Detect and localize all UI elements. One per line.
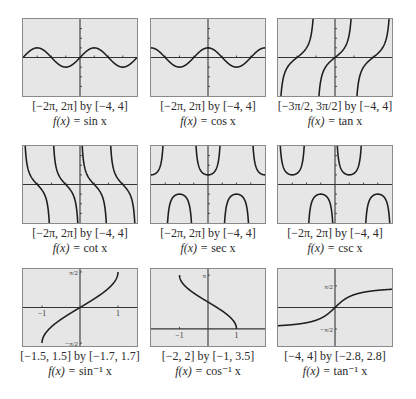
viewing-window-label: [−3π/2, 3π/2] by [−4, 4] [271,99,399,113]
graph-viewing-window [277,145,393,224]
function-name: sec x [211,241,235,255]
function-label: f(x) = tan x [271,114,399,128]
function-prefix: f(x) = [308,114,339,128]
function-name: cos⁻¹ x [206,364,241,378]
y-tick-label: −π/2 [65,340,78,346]
graph-viewing-window [22,145,138,224]
function-name: sin⁻¹ x [79,364,112,378]
function-prefix: f(x) = [53,241,84,255]
function-label: f(x) = cos⁻¹ x [144,364,272,378]
x-tick-label: −1 [175,331,183,340]
viewing-window-label: [−4, 4] by [−2.8, 2.8] [271,349,399,363]
function-prefix: f(x) = [303,364,334,378]
viewing-window-label: [−1.5, 1.5] by [−1.7, 1.7] [16,349,144,363]
function-name: tan x [339,114,363,128]
x-tick-label: 1 [235,331,239,340]
function-label: f(x) = csc x [271,241,399,255]
function-prefix: f(x) = [180,241,211,255]
graph-plot: −11π/2−π/2 [23,269,137,346]
viewing-window-label: [−2π, 2π] by [−4, 4] [16,226,144,240]
function-label: f(x) = cos x [144,114,272,128]
function-name: cot x [84,241,108,255]
graph-viewing-window: −11π/2−π/2 [22,268,138,347]
function-label: f(x) = tan⁻¹ x [271,364,399,378]
graph-plot [278,19,392,96]
y-tick-label: −π/2 [320,326,333,333]
y-tick-label: π [203,272,207,279]
function-name: sin x [84,114,107,128]
graph-viewing-window [150,18,266,97]
graph-viewing-window: π/2−π/2 [277,268,393,347]
graph-plot [23,146,137,223]
function-label: f(x) = sin⁻¹ x [16,364,144,378]
function-label: f(x) = sin x [16,114,144,128]
function-name: cos x [211,114,236,128]
graph-plot [151,19,265,96]
viewing-window-label: [−2π, 2π] by [−4, 4] [144,226,272,240]
function-name: tan⁻¹ x [334,364,368,378]
graph-viewing-window [150,145,266,224]
function-prefix: f(x) = [48,364,79,378]
function-prefix: f(x) = [180,114,211,128]
graph-viewing-window [277,18,393,97]
graph-viewing-window [22,18,138,97]
viewing-window-label: [−2, 2] by [−1, 3.5] [144,349,272,363]
x-tick-label: −1 [38,309,46,318]
graph-plot: π/2−π/2 [278,269,392,346]
viewing-window-label: [−2π, 2π] by [−4, 4] [16,99,144,113]
graph-viewing-window: −11π [150,268,266,347]
function-name: csc x [338,241,362,255]
y-tick-label: π/2 [324,283,333,290]
function-prefix: f(x) = [307,241,338,255]
function-label: f(x) = sec x [144,241,272,255]
graph-plot: −11π [151,269,265,346]
graph-plot [151,146,265,223]
y-tick-label: π/2 [69,269,78,276]
function-label: f(x) = cot x [16,241,144,255]
function-prefix: f(x) = [175,364,206,378]
viewing-window-label: [−2π, 2π] by [−4, 4] [271,226,399,240]
graph-plot [23,19,137,96]
viewing-window-label: [−2π, 2π] by [−4, 4] [144,99,272,113]
function-prefix: f(x) = [53,114,84,128]
x-tick-label: 1 [116,309,120,318]
graph-plot [278,146,392,223]
